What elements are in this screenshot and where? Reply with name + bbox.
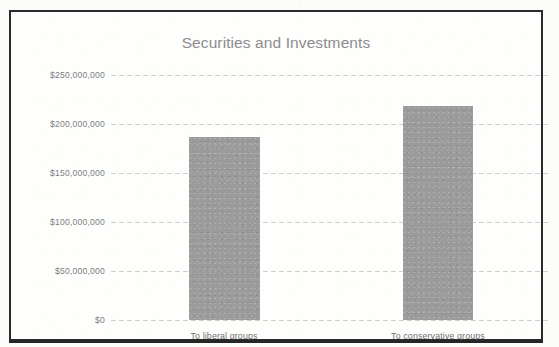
plot-area: $250,000,000 $200,000,000 $150,000,000 $… [111, 75, 548, 320]
gridline-50m [111, 271, 548, 272]
y-tick-label-200m: $200,000,000 [50, 119, 105, 129]
chart-title: Securities and Investments [11, 34, 541, 52]
gridline-zero [111, 320, 548, 321]
bar-to-conservative-groups[interactable] [403, 106, 473, 320]
y-tick-label-50m: $50,000,000 [55, 266, 105, 276]
gridline-200m [111, 124, 548, 125]
y-tick-label-250m: $250,000,000 [50, 70, 105, 80]
y-tick-label-150m: $150,000,000 [50, 168, 105, 178]
page-bottom-rule [9, 340, 543, 343]
chart-frame: Securities and Investments $250,000,000 … [9, 10, 543, 341]
bar-to-liberal-groups[interactable] [189, 137, 260, 320]
gridline-100m [111, 222, 548, 223]
gridline-150m [111, 173, 548, 174]
gridline-250m [111, 75, 548, 76]
y-tick-label-zero: $0 [95, 315, 105, 325]
y-tick-label-100m: $100,000,000 [50, 217, 105, 227]
